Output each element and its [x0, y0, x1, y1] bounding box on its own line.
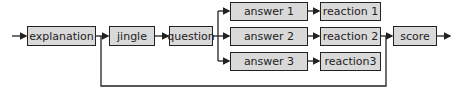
node-score: score — [393, 26, 437, 46]
node-answer-1: answer 1 — [230, 2, 308, 21]
node-question: question — [169, 26, 213, 46]
node-jingle: jingle — [109, 26, 155, 46]
node-reaction-1: reaction 1 — [320, 2, 381, 21]
node-answer-3: answer 3 — [230, 52, 308, 71]
node-reaction-2: reaction 2 — [320, 27, 381, 46]
node-answer-2: answer 2 — [230, 27, 308, 46]
node-explanation: explanation — [27, 26, 96, 46]
node-reaction-3: reaction3 — [320, 52, 381, 71]
